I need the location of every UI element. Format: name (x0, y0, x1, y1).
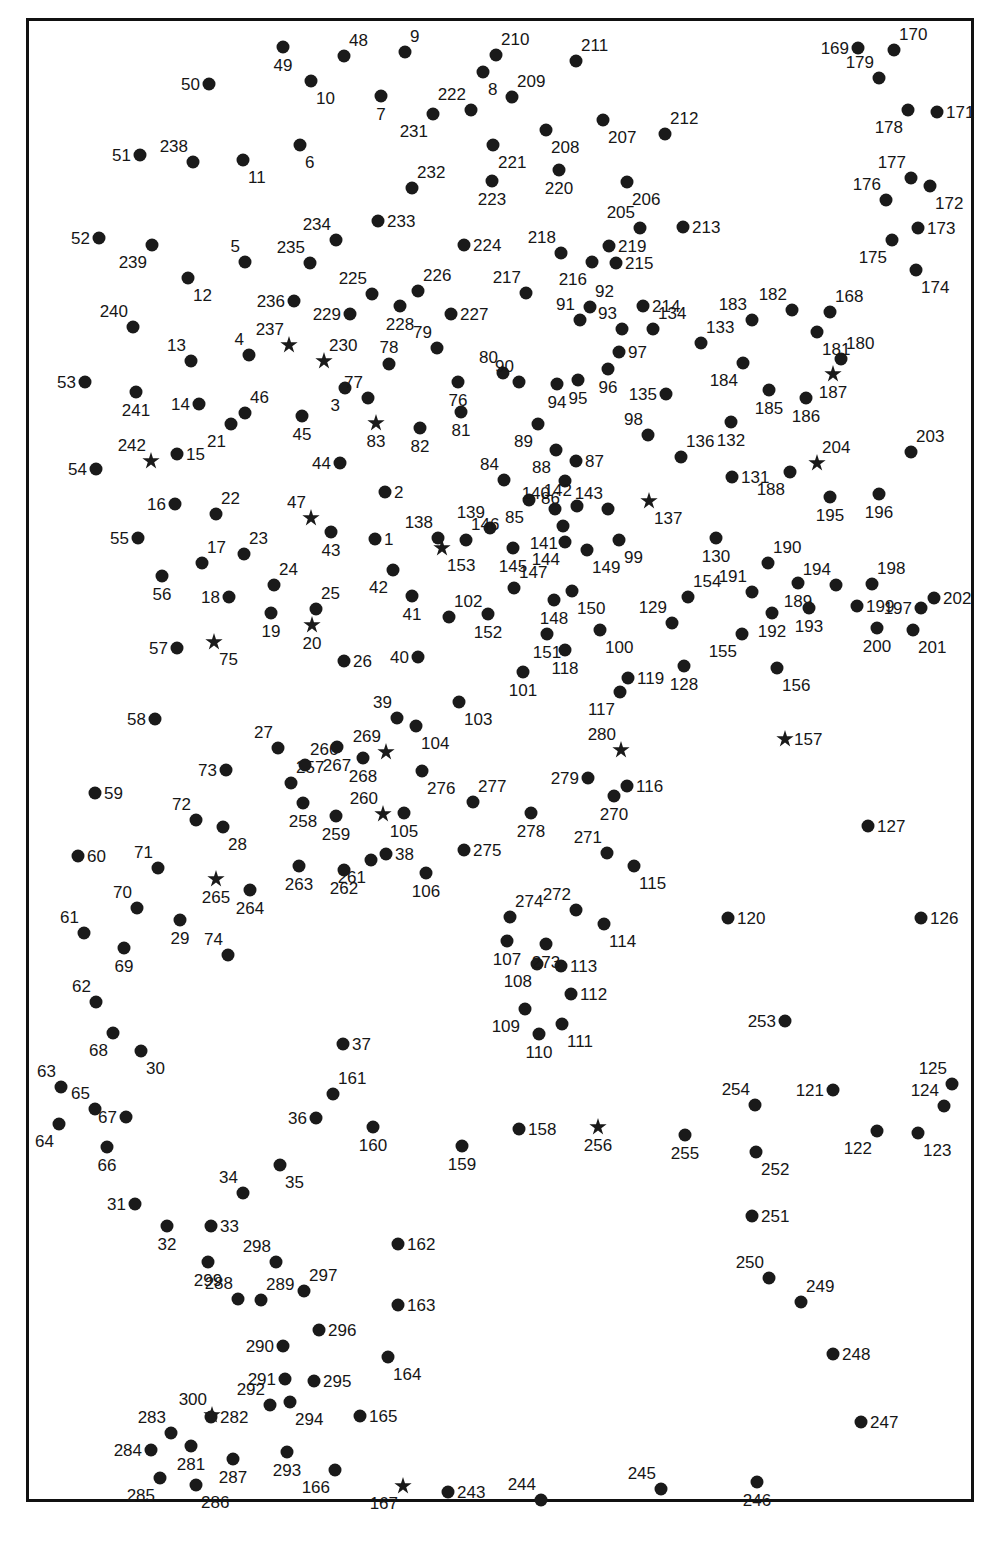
point-label: 286 (201, 1494, 229, 1511)
circle-marker-icon (886, 234, 899, 247)
circle-marker-icon (238, 548, 251, 561)
point-label: 152 (474, 624, 502, 641)
circle-marker-icon (165, 1427, 178, 1440)
circle-marker-icon (501, 935, 514, 948)
point-label: 27 (254, 724, 273, 741)
circle-marker-icon (327, 1088, 340, 1101)
point-label: 103 (464, 711, 492, 728)
circle-marker-icon (458, 844, 471, 857)
circle-marker-icon (134, 149, 147, 162)
circle-marker-icon (293, 860, 306, 873)
circle-marker-icon (299, 759, 312, 772)
circle-marker-icon (398, 807, 411, 820)
circle-marker-icon (622, 672, 635, 685)
point-label: 32 (158, 1236, 177, 1253)
circle-marker-icon (677, 221, 690, 234)
circle-marker-icon (570, 55, 583, 68)
circle-marker-icon (907, 624, 920, 637)
point-label: 39 (373, 694, 392, 711)
point-label: 171 (946, 104, 974, 121)
circle-marker-icon (465, 104, 478, 117)
circle-marker-icon (746, 1210, 759, 1223)
circle-marker-icon (613, 534, 626, 547)
star-marker-icon (367, 414, 385, 432)
point-label: 211 (581, 37, 608, 54)
circle-marker-icon (210, 508, 223, 521)
point-label: 146 (471, 516, 499, 533)
circle-marker-icon (190, 814, 203, 827)
circle-marker-icon (594, 624, 607, 637)
circle-marker-icon (270, 1256, 283, 1269)
circle-marker-icon (634, 222, 647, 235)
circle-marker-icon (762, 557, 775, 570)
point-label: 281 (177, 1456, 205, 1473)
circle-marker-icon (924, 180, 937, 193)
point-label: 244 (508, 1476, 536, 1493)
circle-marker-icon (871, 622, 884, 635)
circle-marker-icon (477, 66, 490, 79)
point-label: 184 (710, 372, 738, 389)
point-label: 254 (722, 1081, 750, 1098)
circle-marker-icon (379, 486, 392, 499)
circle-marker-icon (305, 75, 318, 88)
point-label: 1 (384, 531, 393, 548)
point-label: 236 (257, 293, 285, 310)
point-label: 274 (515, 893, 543, 910)
point-label: 88 (532, 459, 551, 476)
circle-marker-icon (613, 346, 626, 359)
circle-marker-icon (498, 474, 511, 487)
point-label: 193 (795, 618, 823, 635)
circle-marker-icon (222, 949, 235, 962)
circle-marker-icon (726, 471, 739, 484)
point-label: 279 (551, 770, 579, 787)
point-label: 147 (519, 564, 547, 581)
circle-marker-icon (193, 398, 206, 411)
circle-marker-icon (135, 1045, 148, 1058)
circle-marker-icon (827, 1084, 840, 1097)
point-label: 290 (246, 1338, 274, 1355)
point-label: 97 (628, 344, 647, 361)
point-label: 221 (498, 154, 526, 171)
point-label: 237 (256, 321, 284, 338)
point-label: 81 (452, 422, 471, 439)
circle-marker-icon (294, 139, 307, 152)
point-label: 5 (231, 238, 240, 255)
circle-marker-icon (928, 592, 941, 605)
point-label: 238 (160, 138, 188, 155)
circle-marker-icon (394, 300, 407, 313)
circle-marker-icon (338, 50, 351, 63)
circle-marker-icon (420, 867, 433, 880)
point-label: 10 (316, 90, 335, 107)
circle-marker-icon (452, 376, 465, 389)
point-label: 26 (353, 653, 372, 670)
circle-marker-icon (614, 686, 627, 699)
star-marker-icon (394, 1477, 412, 1495)
point-label: 14 (171, 396, 190, 413)
circle-marker-icon (597, 114, 610, 127)
circle-marker-icon (196, 557, 209, 570)
point-label: 181 (822, 341, 850, 358)
point-label: 182 (759, 286, 787, 303)
circle-marker-icon (132, 532, 145, 545)
point-label: 170 (899, 26, 927, 43)
circle-marker-icon (621, 780, 634, 793)
circle-marker-icon (722, 912, 735, 925)
point-label: 247 (870, 1414, 898, 1431)
point-label: 226 (423, 267, 451, 284)
point-label: 166 (302, 1479, 330, 1496)
point-label: 269 (353, 728, 381, 745)
point-label: 19 (262, 623, 281, 640)
point-label: 242 (118, 437, 146, 454)
point-label: 64 (35, 1133, 54, 1150)
point-label: 278 (517, 823, 545, 840)
point-label: 21 (207, 433, 226, 450)
circle-marker-icon (862, 820, 875, 833)
point-label: 256 (584, 1137, 612, 1154)
point-label: 121 (796, 1082, 824, 1099)
point-label: 251 (761, 1208, 789, 1225)
star-marker-icon (303, 616, 321, 634)
point-label: 98 (624, 411, 643, 428)
point-label: 34 (219, 1169, 238, 1186)
circle-marker-icon (412, 651, 425, 664)
point-label: 44 (312, 455, 331, 472)
